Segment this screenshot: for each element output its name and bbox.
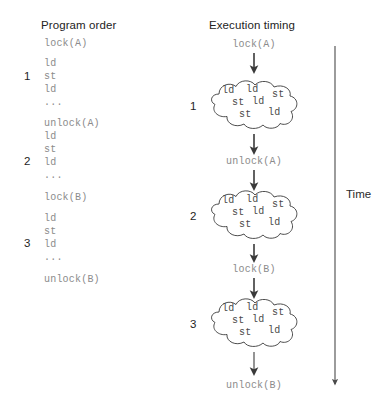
program-line-ld: ld (44, 131, 56, 142)
cloud-1: ld ld st st ld st ld (212, 81, 297, 129)
cloud-3-op-st: st (272, 307, 284, 318)
program-order-heading: Program order (41, 19, 116, 31)
cloud-3: ld ld st st ld st ld (212, 299, 297, 347)
execution-timing-heading: Execution timing (209, 19, 295, 31)
cloud-1-op-st: st (272, 89, 284, 100)
time-axis-label: Time (346, 188, 371, 200)
exec-label-lock-b: lock(B) (194, 264, 314, 275)
cloud-2-op-st: st (272, 199, 284, 210)
cloud-3-op-st: st (239, 327, 251, 338)
exec-label-lock-a: lock(A) (194, 39, 314, 50)
program-group-number-3: 3 (24, 237, 30, 249)
cloud-1-op-st: st (239, 109, 251, 120)
cloud-2-op-ld: ld (246, 194, 258, 205)
cloud-1-op-ld: ld (222, 85, 234, 96)
program-line-ld: ld (44, 239, 56, 250)
program-line-ld: ld (44, 213, 56, 224)
program-line-lock-b: lock(B) (44, 192, 87, 203)
cloud-2: ld ld st st ld st ld (212, 191, 297, 239)
cloud-2-op-ld: ld (268, 217, 280, 228)
cloud-3-op-ld: ld (222, 303, 234, 314)
program-line-ld: ld (44, 84, 56, 95)
cloud-number-1: 1 (190, 100, 196, 112)
cloud-2-op-ld: ld (252, 206, 264, 217)
cloud-1-op-ld: ld (268, 107, 280, 118)
program-line-unlock-b: unlock(B) (44, 274, 100, 285)
cloud-number-3: 3 (190, 318, 196, 330)
cloud-2-op-st: st (239, 219, 251, 230)
cloud-1-op-ld: ld (246, 84, 258, 95)
program-line-unlock-a: unlock(A) (44, 118, 100, 129)
cloud-1-op-ld: ld (252, 96, 264, 107)
program-line-ellipsis: ... (44, 170, 63, 181)
program-line-ellipsis: ... (44, 97, 63, 108)
cloud-2-op-st: st (232, 207, 244, 218)
program-line-st: st (44, 144, 56, 155)
cloud-2-op-ld: ld (222, 195, 234, 206)
cloud-number-2: 2 (190, 210, 196, 222)
program-line-st: st (44, 226, 56, 237)
program-group-number-1: 1 (24, 70, 30, 82)
figure-canvas: Program order Execution timing lock(A) l… (0, 0, 390, 409)
program-line-ld: ld (44, 58, 56, 69)
exec-label-unlock-a: unlock(A) (194, 156, 314, 167)
cloud-3-op-st: st (232, 315, 244, 326)
program-line-ld: ld (44, 157, 56, 168)
diagram-vector-layer: ld ld st st ld st ld ld ld st st ld st l… (0, 0, 390, 409)
program-group-number-2: 2 (24, 155, 30, 167)
program-line-st: st (44, 71, 56, 82)
cloud-1-op-st: st (232, 97, 244, 108)
program-line-ellipsis: ... (44, 252, 63, 263)
exec-label-unlock-b: unlock(B) (194, 380, 314, 391)
cloud-3-op-ld: ld (252, 314, 264, 325)
program-line-lock-a: lock(A) (44, 38, 87, 49)
cloud-3-op-ld: ld (246, 302, 258, 313)
cloud-3-op-ld: ld (268, 325, 280, 336)
